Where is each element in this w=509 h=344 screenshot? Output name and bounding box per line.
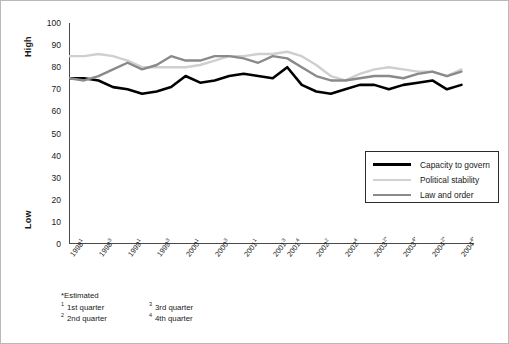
legend-label: Capacity to govern [420, 160, 490, 170]
y-tick-0: 0 [35, 240, 61, 248]
legend-swatch-icon [373, 179, 411, 181]
footnote-item-2: 22nd quarter [61, 313, 149, 324]
y-tick-100: 100 [35, 19, 61, 27]
footnotes: *Estimated 11st quarter22nd quarter 33rd… [61, 290, 237, 324]
y-tick-20: 20 [35, 196, 61, 204]
legend-item-1: Political stability [366, 172, 498, 187]
footnote-item-4: 44th quarter [149, 313, 237, 324]
y-axis-high-label: High [23, 36, 33, 57]
legend-swatch-icon [373, 163, 411, 166]
legend-item-2: Law and order [366, 187, 498, 202]
legend-swatch-icon [373, 194, 411, 196]
footnote-estimated: *Estimated [61, 290, 237, 301]
footnote-column-left: 11st quarter22nd quarter [61, 302, 149, 324]
footnote-item-1: 11st quarter [61, 302, 149, 313]
chart-figure: High Low 1009080706050403020100 19981199… [0, 0, 509, 344]
legend-item-0: Capacity to govern [366, 157, 498, 172]
footnote-grid: 11st quarter22nd quarter 33rd quarter44t… [61, 302, 237, 324]
series-line-0 [70, 67, 462, 94]
y-tick-50: 50 [35, 130, 61, 138]
legend-label: Law and order [420, 190, 474, 200]
y-axis-tick-labels: 1009080706050403020100 [33, 1, 61, 344]
footnote-item-3: 33rd quarter [149, 302, 237, 313]
y-tick-40: 40 [35, 152, 61, 160]
y-tick-10: 10 [35, 218, 61, 226]
y-tick-30: 30 [35, 174, 61, 182]
y-tick-70: 70 [35, 85, 61, 93]
y-axis-low-label: Low [23, 210, 33, 229]
y-tick-80: 80 [35, 63, 61, 71]
chart-legend: Capacity to governPolitical stabilityLaw… [365, 151, 499, 203]
y-tick-60: 60 [35, 107, 61, 115]
chart-svg [69, 23, 474, 244]
y-tick-90: 90 [35, 41, 61, 49]
plot-area [69, 23, 474, 244]
footnote-column-right: 33rd quarter44th quarter [149, 302, 237, 324]
legend-label: Political stability [420, 175, 479, 185]
